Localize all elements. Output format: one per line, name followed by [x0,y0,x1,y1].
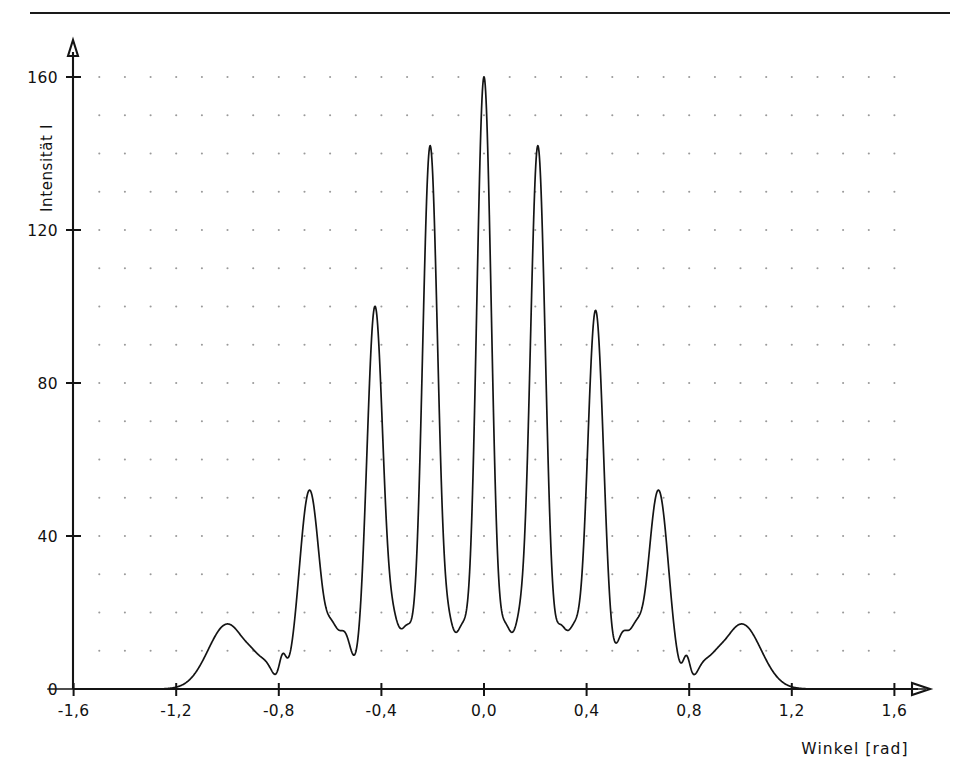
axes [68,40,930,695]
x-tick-label: 1,2 [779,702,805,720]
x-tick-label: 0,4 [574,702,600,720]
x-tick-label: -1,2 [160,702,192,720]
x-tick-label: -1,6 [58,702,90,720]
y-tick-label: 80 [37,375,58,393]
x-axis-tick-labels: -1,6-1,2-0,8-0,40,00,40,81,21,6 [58,702,908,720]
y-tick-label: 160 [27,69,58,87]
x-tick-label: -0,8 [263,702,295,720]
diffraction-intensity-chart: -1,6-1,2-0,8-0,40,00,40,81,21,6 04080120… [0,0,967,776]
x-axis-label: Winkel [rad] [801,740,908,758]
intensity-curve [48,77,925,689]
x-tick-label: 0,8 [676,702,702,720]
grid-dots [98,76,895,652]
y-axis-label: Intensität I [38,124,56,212]
figure-page: -1,6-1,2-0,8-0,40,00,40,81,21,6 04080120… [0,0,967,776]
y-tick-label: 0 [48,681,58,699]
y-tick-label: 120 [27,222,58,240]
chart-svg: -1,6-1,2-0,8-0,40,00,40,81,21,6 04080120… [0,0,967,776]
y-tick-label: 40 [37,528,58,546]
x-tick-label: -0,4 [365,702,397,720]
x-tick-label: 1,6 [881,702,907,720]
x-tick-label: 0,0 [471,702,497,720]
